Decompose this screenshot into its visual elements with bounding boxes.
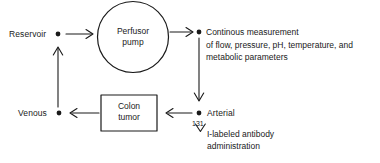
measurement-line-1: Continous measurement bbox=[206, 26, 353, 39]
measurement-bullet bbox=[197, 30, 202, 35]
arterial-bullet bbox=[197, 111, 202, 116]
reservoir-bullet bbox=[56, 32, 61, 37]
reservoir-label: Reservoir bbox=[9, 29, 46, 40]
antibody-line-1: I-labeled antibody bbox=[207, 129, 274, 141]
measurement-line-3: metabolic parameters bbox=[206, 51, 353, 64]
colon-tumor-label-line1: Colon bbox=[101, 101, 157, 112]
measurement-line-2: of flow, pressure, pH, temperature, and bbox=[206, 39, 353, 52]
isotope-mass-number-label: 131 bbox=[192, 120, 204, 128]
arterial-label: Arterial bbox=[207, 108, 235, 119]
measurement-text-block: Continous measurement of flow, pressure,… bbox=[206, 26, 353, 64]
colon-tumor-label-line2: tumor bbox=[101, 112, 157, 123]
perfusion-circuit-diagram: Reservoir Perfusor pump Continous measur… bbox=[0, 0, 380, 163]
perfusor-pump-label-line1: Perfusor bbox=[97, 26, 169, 37]
diagram-vector-layer bbox=[0, 0, 380, 163]
venous-label: Venous bbox=[18, 108, 47, 119]
venous-bullet bbox=[57, 111, 62, 116]
perfusor-pump-label-line2: pump bbox=[97, 37, 169, 48]
antibody-line-2: administration bbox=[207, 141, 274, 153]
antibody-text-block: I-labeled antibody administration bbox=[207, 129, 274, 152]
